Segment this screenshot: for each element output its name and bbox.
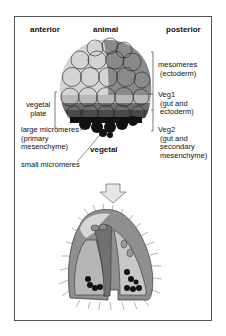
label-anterior: anterior [30, 26, 60, 35]
label-veg2: Veg2 (gut and secondary mesenchyme) [158, 126, 207, 160]
label-large-micromeres: large micromeres (primary mesenchyme) [21, 126, 79, 152]
label-small-micromeres: small micromeres [21, 161, 80, 170]
micromeres [70, 116, 142, 138]
label-veg1: Veg1 (gut and ectoderm) [158, 91, 194, 117]
transition-arrow-icon [100, 184, 126, 203]
left-bracket [55, 92, 57, 128]
larva-diagram [59, 204, 162, 310]
label-vegetal: vegetal [90, 146, 118, 155]
label-posterior: posterior [166, 26, 201, 35]
label-mesomeres: mesomeres (ectoderm) [158, 61, 197, 78]
label-vegetal-plate: vegetal plate [24, 101, 50, 118]
label-animal: animal [93, 26, 118, 35]
